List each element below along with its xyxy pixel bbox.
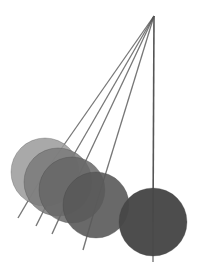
pendulum-bob xyxy=(119,188,187,256)
pendulum-scene xyxy=(0,0,197,271)
pendulum-bob xyxy=(63,172,129,238)
pendulum-illustration xyxy=(0,0,197,271)
